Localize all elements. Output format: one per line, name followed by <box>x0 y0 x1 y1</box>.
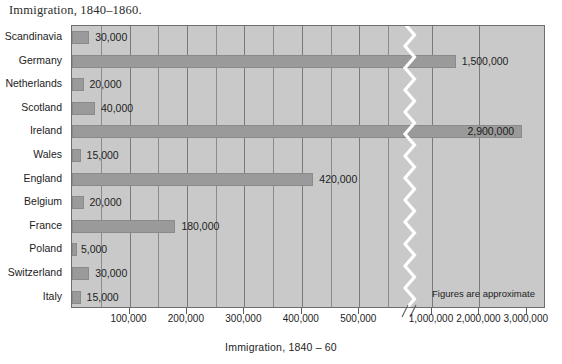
bar-row: 180,000 <box>72 215 544 239</box>
bar-value-label-scotland: 40,000 <box>101 101 133 116</box>
bar-row: 30,000 <box>72 262 544 286</box>
bar-ireland[interactable] <box>72 125 522 138</box>
category-label-scotland: Scotland <box>21 96 62 120</box>
category-label-france: France <box>29 214 62 238</box>
bar-value-label-england: 420,000 <box>319 172 357 187</box>
bar-row: 15,000 <box>72 144 544 168</box>
bar-belgium[interactable] <box>72 196 84 209</box>
bar-row: 5,000 <box>72 238 544 262</box>
bar-poland[interactable] <box>72 243 77 256</box>
bar-value-label-france: 180,000 <box>181 219 219 234</box>
bar-scotland[interactable] <box>72 102 95 115</box>
chart-title: Immigration, 1840–1860. <box>9 3 142 18</box>
tick-label-200000: 200,000 <box>168 313 204 324</box>
bar-england[interactable] <box>72 173 313 186</box>
bar-value-label-netherlands: 20,000 <box>90 77 122 92</box>
bar-value-label-ireland: 2,900,000 <box>467 124 514 139</box>
bar-value-label-scandinavia: 30,000 <box>95 30 127 45</box>
plot-area: 30,0001,500,00020,00040,0002,900,00015,0… <box>71 25 545 308</box>
bar-row: 30,000 <box>72 26 544 50</box>
tick-label-3000000: 3,000,000 <box>504 313 549 324</box>
bar-italy[interactable] <box>72 291 81 304</box>
category-label-belgium: Belgium <box>24 190 62 214</box>
bar-row: 1,500,000 <box>72 50 544 74</box>
immigration-bar-chart-figure: Immigration, 1840–1860. ScandinaviaGerma… <box>0 0 562 364</box>
bar-row: 20,000 <box>72 73 544 97</box>
tick-label-400000: 400,000 <box>283 313 319 324</box>
tick-label-100000: 100,000 <box>110 313 146 324</box>
bar-value-label-switzerland: 30,000 <box>95 266 127 281</box>
bar-scandinavia[interactable] <box>72 31 89 44</box>
bar-germany[interactable] <box>72 55 456 68</box>
bar-value-label-poland: 5,000 <box>81 242 107 257</box>
bar-switzerland[interactable] <box>72 267 89 280</box>
category-axis-labels: ScandinaviaGermanyNetherlandsScotlandIre… <box>0 25 66 308</box>
bar-netherlands[interactable] <box>72 78 84 91</box>
category-label-netherlands: Netherlands <box>5 72 62 96</box>
x-axis-ticks: 100,000200,000300,000400,000500,0001,000… <box>0 308 562 322</box>
category-label-ireland: Ireland <box>30 119 62 143</box>
category-label-england: England <box>23 167 62 191</box>
bar-value-label-wales: 15,000 <box>87 148 119 163</box>
tick-label-500000: 500,000 <box>340 313 376 324</box>
bar-row: 20,000 <box>72 191 544 215</box>
category-label-italy: Italy <box>43 285 62 309</box>
bar-value-label-italy: 15,000 <box>87 290 119 305</box>
bar-row: 420,000 <box>72 168 544 192</box>
tick-label-1000000: 1,000,000 <box>409 313 454 324</box>
category-label-germany: Germany <box>19 49 62 73</box>
category-label-poland: Poland <box>29 237 62 261</box>
x-axis-title: Immigration, 1840 – 60 <box>0 341 562 353</box>
bar-row: 2,900,000 <box>72 120 544 144</box>
category-label-switzerland: Switzerland <box>8 261 62 285</box>
category-label-wales: Wales <box>33 143 62 167</box>
tick-label-2000000: 2,000,000 <box>456 313 501 324</box>
bar-france[interactable] <box>72 220 175 233</box>
approximate-figures-note: Figures are approximate <box>432 288 535 299</box>
category-label-scandinavia: Scandinavia <box>5 25 62 49</box>
bar-wales[interactable] <box>72 149 81 162</box>
tick-label-300000: 300,000 <box>225 313 261 324</box>
bar-value-label-germany: 1,500,000 <box>462 54 509 69</box>
bar-value-label-belgium: 20,000 <box>90 195 122 210</box>
bar-row: 40,000 <box>72 97 544 121</box>
